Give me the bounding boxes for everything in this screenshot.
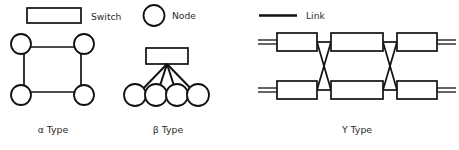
figure-canvas: Switch Node Link [0, 0, 459, 150]
gamma-switches-top [277, 33, 437, 51]
beta-node-3 [166, 84, 188, 106]
legend-label-switch: Switch [91, 11, 122, 22]
legend-label-link: Link [306, 10, 325, 21]
panel-gamma-type: Υ Type [258, 33, 456, 135]
alpha-node-top-right [74, 34, 94, 54]
alpha-node-bottom-right [74, 85, 94, 105]
gamma-switch-top-1 [277, 33, 317, 51]
gamma-switch-top-2 [331, 33, 383, 51]
gamma-switch-top-3 [397, 33, 437, 51]
network-topology-figure: Switch Node Link [0, 0, 459, 150]
gamma-switches-bottom [277, 81, 437, 99]
legend-item-node: Node [144, 5, 197, 26]
legend-item-switch: Switch [27, 8, 122, 23]
beta-node-2 [145, 84, 167, 106]
gamma-interstage-links-2 [383, 42, 397, 90]
node-icon [144, 5, 165, 26]
gamma-type-caption: Υ Type [341, 124, 372, 135]
beta-switch [146, 48, 188, 64]
panel-beta-type: β Type [124, 48, 209, 135]
panel-alpha-type: α Type [11, 34, 94, 135]
beta-node-4 [187, 84, 209, 106]
alpha-type-caption: α Type [38, 124, 69, 135]
beta-node-1 [124, 84, 146, 106]
legend-label-node: Node [172, 10, 196, 21]
beta-nodes [124, 84, 209, 106]
gamma-switch-bottom-1 [277, 81, 317, 99]
gamma-external-links-left [258, 40, 277, 92]
gamma-interstage-links-1 [317, 42, 331, 90]
alpha-node-top-left [11, 34, 31, 54]
alpha-links [24, 47, 81, 92]
gamma-switch-bottom-2 [331, 81, 383, 99]
beta-type-caption: β Type [153, 124, 184, 135]
legend-item-link: Link [259, 10, 325, 21]
switch-icon [27, 8, 81, 23]
alpha-node-bottom-left [11, 85, 31, 105]
gamma-external-links-right [437, 40, 456, 92]
gamma-switch-bottom-3 [397, 81, 437, 99]
